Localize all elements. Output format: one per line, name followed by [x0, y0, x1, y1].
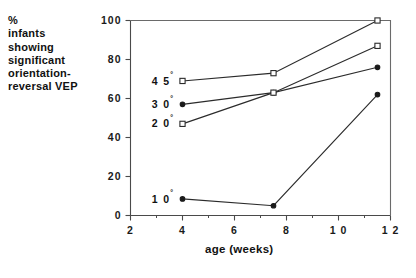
data-point-20 [180, 121, 185, 126]
series-line-20 [183, 46, 378, 124]
series-label-text-20: 2 0 [152, 117, 171, 129]
data-point-20 [375, 43, 380, 48]
series-label-45: 4 5° [152, 71, 173, 86]
data-markers [180, 18, 380, 208]
series-label-text-45: 4 5 [152, 75, 171, 87]
plot-area: 020406080100 24681 01 2 4 5°3 0°2 0°1 0° [0, 0, 416, 278]
y-tick-label: 20 [108, 170, 122, 182]
x-tick-label: 8 [283, 224, 290, 236]
degree-symbol-20: ° [170, 114, 173, 121]
data-point-45 [375, 18, 380, 23]
series-label-text-10: 1 0 [152, 193, 171, 205]
x-tick-label: 2 [127, 224, 134, 236]
data-point-45 [180, 78, 185, 83]
degree-symbol-10: ° [170, 189, 173, 196]
data-point-45 [271, 71, 276, 76]
series-label-30: 3 0° [152, 95, 173, 110]
y-tick-label: 100 [101, 14, 122, 26]
data-lines [183, 21, 378, 206]
series-label-20: 2 0° [152, 114, 173, 129]
series-labels: 4 5°3 0°2 0°1 0° [152, 71, 173, 204]
y-tick-label: 0 [115, 209, 122, 221]
data-point-30 [375, 65, 380, 70]
x-tick-label: 1 2 [382, 224, 400, 236]
y-tick-labels: 020406080100 [101, 14, 122, 221]
x-tick-label: 1 0 [330, 224, 348, 236]
series-line-10 [183, 95, 378, 206]
data-point-10 [180, 197, 185, 202]
data-point-20 [271, 90, 276, 95]
series-label-10: 1 0° [152, 189, 173, 204]
x-tick-labels: 24681 01 2 [127, 224, 399, 236]
degree-symbol-30: ° [170, 95, 173, 102]
chart-figure: % infants showing significant orientatio… [0, 0, 416, 278]
series-line-30 [183, 67, 378, 104]
y-tick-label: 60 [108, 92, 122, 104]
x-tick-label: 6 [231, 224, 238, 236]
x-tick-label: 4 [179, 224, 186, 236]
data-point-10 [375, 92, 380, 97]
series-label-text-30: 3 0 [152, 98, 171, 110]
data-point-10 [271, 203, 276, 208]
data-point-30 [180, 102, 185, 107]
degree-symbol-45: ° [170, 71, 173, 78]
y-tick-label: 40 [108, 131, 122, 143]
y-tick-label: 80 [108, 53, 122, 65]
series-line-45 [183, 21, 378, 81]
